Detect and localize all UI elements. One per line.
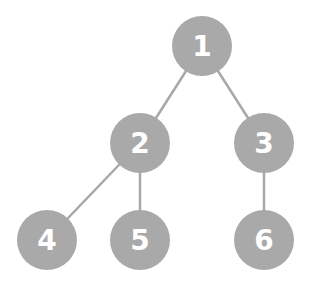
node-label: 6 — [254, 224, 273, 257]
tree-node-5: 5 — [110, 210, 170, 270]
node-label: 4 — [37, 224, 56, 257]
node-label: 3 — [254, 127, 273, 160]
node-label: 2 — [130, 127, 149, 160]
node-label: 1 — [192, 30, 211, 63]
nodes: 1 2 3 4 5 6 — [17, 16, 294, 270]
tree-node-4: 4 — [17, 210, 77, 270]
tree-node-3: 3 — [234, 113, 294, 173]
tree-node-2: 2 — [110, 113, 170, 173]
tree-diagram: 1 2 3 4 5 6 — [0, 0, 316, 293]
tree-node-1: 1 — [172, 16, 232, 76]
node-label: 5 — [130, 224, 149, 257]
tree-node-6: 6 — [234, 210, 294, 270]
